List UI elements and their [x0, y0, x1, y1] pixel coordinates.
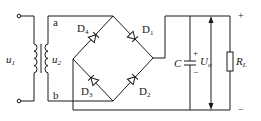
input-terminal-bottom — [17, 99, 21, 103]
secondary-coil — [45, 44, 48, 73]
label-u1: u1 — [6, 53, 15, 67]
label-d3: D3 — [81, 85, 93, 99]
label-capacitor-minus: − — [193, 67, 198, 77]
label-d1: D1 — [142, 23, 154, 37]
label-capacitor: C — [174, 57, 182, 69]
label-node-a: a — [53, 16, 58, 28]
label-u2: u2 — [52, 53, 62, 67]
arrow-up-icon — [209, 16, 214, 23]
primary-wire-top — [21, 16, 34, 44]
arrow-down-icon — [209, 103, 214, 110]
label-output-voltage: Uo — [200, 55, 212, 69]
label-output-minus: − — [238, 104, 244, 115]
label-d2: D2 — [139, 85, 151, 99]
label-d4: D4 — [77, 22, 89, 36]
primary-wire-bottom — [21, 73, 34, 101]
load-resistor — [227, 52, 233, 71]
label-capacitor-plus: + — [193, 48, 198, 58]
label-output-plus: + — [238, 10, 244, 21]
primary-coil — [34, 44, 37, 73]
label-load: RL — [235, 55, 247, 69]
wire-positive-rail — [153, 16, 230, 58]
bridge-rectifier-diagram: u1 u2 a b D4 D1 D3 D2 C + − Uo RL + − — [0, 0, 261, 121]
input-terminal-top — [17, 14, 21, 18]
label-node-b: b — [53, 89, 59, 101]
